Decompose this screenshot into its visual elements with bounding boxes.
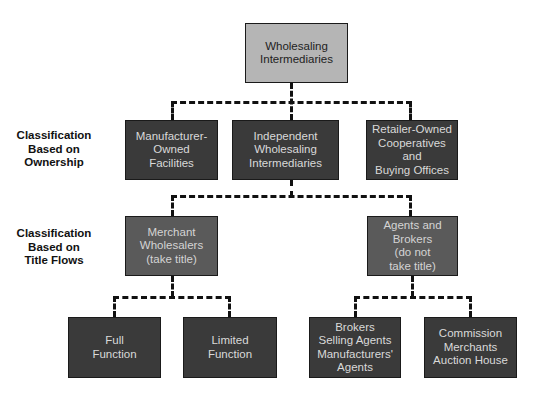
node-merchant-wholesalers: Merchant Wholesalers (take title)	[125, 216, 218, 276]
node-commission-merchants: Commission Merchants Auction House	[424, 317, 517, 378]
node-wholesaling-intermediaries: Wholesaling Intermediaries	[245, 23, 348, 83]
connector	[409, 101, 412, 120]
connector	[354, 296, 357, 317]
connector	[171, 195, 174, 216]
node-independent-wholesaling-intermediaries: Independent Wholesaling Intermediaries	[232, 120, 339, 180]
node-limited-function: Limited Function	[183, 317, 277, 378]
connector	[171, 101, 412, 104]
connector	[171, 195, 412, 198]
row-label-title-flows: Classification Based on Title Flows	[6, 227, 102, 268]
connector	[171, 101, 174, 120]
node-retailer-owned-cooperatives: Retailer-Owned Cooperatives and Buying O…	[366, 120, 458, 180]
connector	[228, 296, 231, 317]
connector	[409, 195, 412, 216]
node-agents-and-brokers: Agents and Brokers (do not take title)	[367, 216, 458, 276]
connector	[113, 296, 231, 299]
row-label-ownership: Classification Based on Ownership	[6, 129, 102, 170]
connector	[411, 276, 414, 297]
node-full-function: Full Function	[68, 317, 161, 378]
connector	[354, 296, 472, 299]
node-manufacturer-owned-facilities: Manufacturer- Owned Facilities	[125, 120, 218, 180]
node-brokers-selling-agents: Brokers Selling Agents Manufacturers' Ag…	[309, 317, 401, 378]
connector	[113, 296, 116, 317]
connector	[469, 296, 472, 317]
connector	[171, 276, 174, 297]
